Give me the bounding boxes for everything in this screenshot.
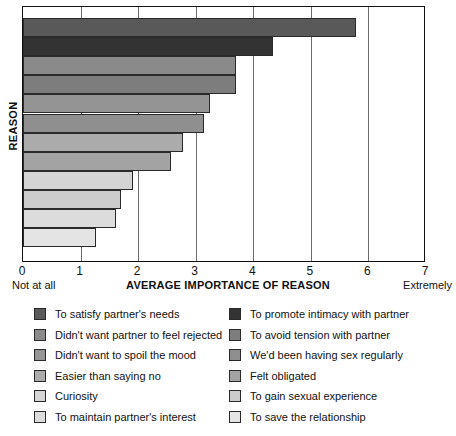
legend-item: Felt obligated [229,366,449,387]
bar [23,171,133,190]
legend-swatch-icon [34,370,46,382]
bar [23,94,210,113]
x-tick-label-6: 6 [364,264,371,278]
bar [23,18,356,37]
legend: To satisfy partner's needsDidn't want pa… [0,300,456,436]
bar [23,190,121,209]
legend-item-label: Felt obligated [250,370,316,382]
x-tick-label-7: 7 [422,264,429,278]
bar [23,228,96,247]
x-axis-tick-labels: 01234567 [0,264,456,280]
x-axis-title: AVERAGE IMPORTANCE OF REASON [0,279,456,291]
legend-item-label: To maintain partner's interest [55,411,196,423]
legend-item-label: To satisfy partner's needs [55,308,179,320]
legend-item-label: To save the relationship [250,411,366,423]
legend-item: To avoid tension with partner [229,325,449,346]
legend-swatch-icon [229,390,241,402]
legend-swatch-icon [34,349,46,361]
legend-item-label: We'd been having sex regularly [250,349,403,361]
bar [23,114,204,133]
legend-swatch-icon [229,349,241,361]
bar [23,133,183,152]
legend-item: To promote intimacy with partner [229,304,449,325]
legend-swatch-icon [229,308,241,320]
legend-item-label: Easier than saying no [55,370,161,382]
legend-column-right: To promote intimacy with partnerTo avoid… [229,304,449,427]
legend-item: To maintain partner's interest [34,407,234,428]
legend-item: Easier than saying no [34,366,234,387]
legend-swatch-icon [229,370,241,382]
legend-item-label: To avoid tension with partner [250,329,390,341]
legend-swatch-icon [229,411,241,423]
legend-item-label: Didn't want to spoil the mood [55,349,196,361]
legend-swatch-icon [34,390,46,402]
x-tick-label-0: 0 [19,264,26,278]
legend-item: To gain sexual experience [229,386,449,407]
legend-item-label: Curiosity [55,390,98,402]
x-tick-label-2: 2 [134,264,141,278]
x-tick-label-1: 1 [76,264,83,278]
bar [23,75,236,94]
legend-item: Didn't want partner to feel rejected [34,325,234,346]
x-tick-label-5: 5 [307,264,314,278]
legend-swatch-icon [34,411,46,423]
legend-swatch-icon [34,308,46,320]
x-tick-label-4: 4 [249,264,256,278]
bar [23,37,273,56]
legend-item-label: To promote intimacy with partner [250,308,409,320]
legend-swatch-icon [229,329,241,341]
legend-item-label: To gain sexual experience [250,390,377,402]
legend-item-label: Didn't want partner to feel rejected [55,329,222,341]
x-tick-label-3: 3 [191,264,198,278]
bar [23,152,171,171]
bar [23,209,116,228]
legend-item: We'd been having sex regularly [229,345,449,366]
legend-item: To satisfy partner's needs [34,304,234,325]
legend-swatch-icon [34,329,46,341]
chart-root: REASON 01234567 Not at all Extremely AVE… [0,0,456,436]
y-axis-title: REASON [7,86,19,166]
bar-series [23,7,424,261]
legend-item: Didn't want to spoil the mood [34,345,234,366]
plot-area [22,6,425,262]
legend-item: Curiosity [34,386,234,407]
legend-item: To save the relationship [229,407,449,428]
bar [23,56,236,75]
legend-column-left: To satisfy partner's needsDidn't want pa… [34,304,234,427]
